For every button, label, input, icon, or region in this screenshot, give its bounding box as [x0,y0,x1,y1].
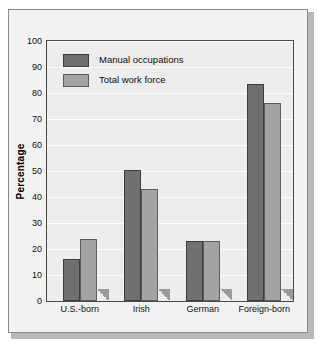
x-axis-label-irish: Irish [133,305,150,314]
bar-group-shadow [220,289,232,301]
legend: Manual occupations Total work force [63,51,184,91]
legend-item-manual-occupations: Manual occupations [63,51,184,69]
legend-label-total-work-force: Total work force [99,75,166,85]
y-axis-tick-label: 70 [32,115,42,124]
bar-manual-occupations [247,84,264,301]
plot-area: 0102030405060708090100 Manual occupation… [46,40,294,302]
manual-occupations-swatch-icon [63,54,89,67]
x-axis-label-foreign-born: Foreign-born [238,305,290,314]
bar-group [186,41,220,301]
bar-group [247,41,281,301]
y-axis-tick-label: 20 [32,245,42,254]
y-axis-title: Percentage [14,40,28,302]
y-axis-tick-label: 100 [27,37,42,46]
bar-group-shadow [97,289,109,301]
bar-total-work-force [203,241,220,301]
x-axis-label-german: German [186,305,219,314]
bar-group-shadow [158,289,170,301]
y-axis-tick-label: 50 [32,167,42,176]
y-axis-tick-label: 80 [32,89,42,98]
bar-total-work-force [141,189,158,301]
total-work-force-swatch-icon [63,74,89,87]
legend-item-total-work-force: Total work force [63,71,184,89]
y-axis-tick-label: 90 [32,63,42,72]
figure-root: Percentage 0102030405060708090100 Manual… [0,0,322,349]
bar-total-work-force [264,103,281,301]
legend-label-manual-occupations: Manual occupations [99,55,184,65]
y-axis-tick-label: 30 [32,219,42,228]
bar-manual-occupations [124,170,141,301]
y-axis-tick-label: 0 [37,297,42,306]
bar-total-work-force [80,239,97,301]
bar-chart: Percentage 0102030405060708090100 Manual… [8,9,308,333]
y-axis-tick-label: 40 [32,193,42,202]
y-axis-tick-label: 10 [32,271,42,280]
y-axis-tick-label: 60 [32,141,42,150]
x-axis-labels: U.S.-bornIrishGermanForeign-born [46,305,294,321]
bar-group-shadow [281,289,293,301]
y-axis-title-label: Percentage [16,143,27,199]
bar-manual-occupations [63,259,80,301]
bar-manual-occupations [186,241,203,301]
x-axis-label-u-s-born: U.S.-born [60,305,99,314]
